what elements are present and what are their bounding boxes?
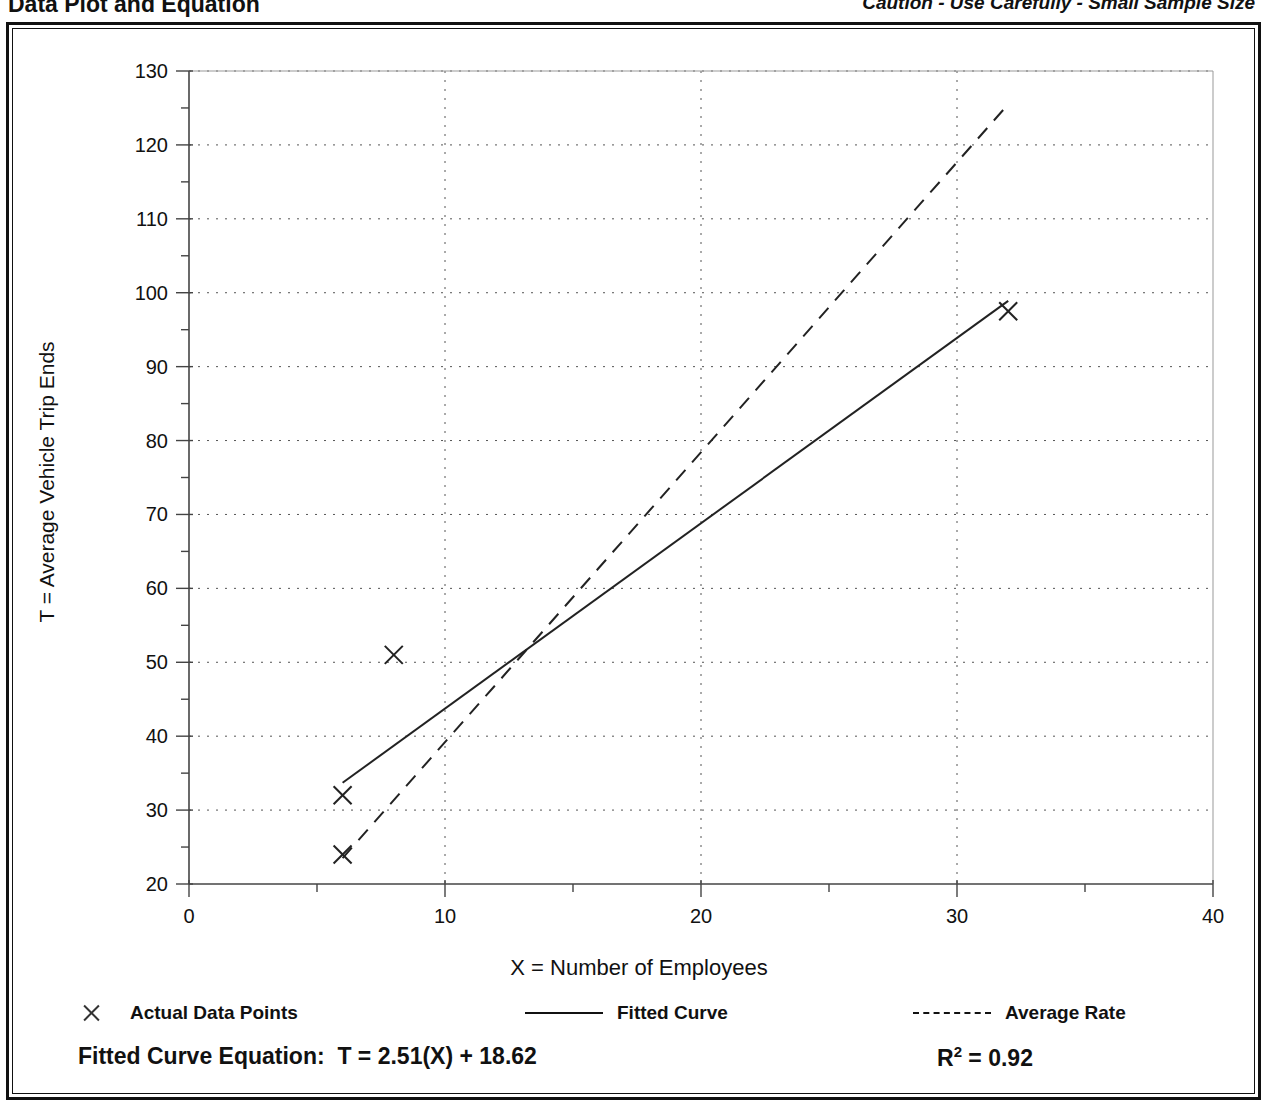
- y-tick-label: 20: [108, 874, 168, 894]
- data-series-layer: [334, 104, 1018, 863]
- equation-label: Fitted Curve Equation:: [78, 1043, 325, 1069]
- y-tick-label: 110: [108, 209, 168, 229]
- y-tick-label: 40: [108, 726, 168, 746]
- x-marker-icon: [70, 1002, 116, 1024]
- legend-item-fitted-curve: Fitted Curve: [525, 999, 728, 1027]
- grid-lines: [189, 71, 1213, 884]
- x-tick-label: 20: [671, 906, 731, 926]
- y-tick-label: 30: [108, 800, 168, 820]
- legend-label: Actual Data Points: [130, 1002, 298, 1024]
- y-tick-label: 120: [108, 135, 168, 155]
- dashed-line-icon: [913, 1002, 991, 1024]
- chart-container: 2030405060708090100110120130 010203040 T…: [0, 0, 1267, 1114]
- equation-value: T = 2.51(X) + 18.62: [337, 1043, 536, 1069]
- y-tick-label: 90: [108, 357, 168, 377]
- scatter-plot-svg: [0, 0, 1267, 1114]
- average-rate-line: [343, 104, 1009, 858]
- x-tick-label: 40: [1183, 906, 1243, 926]
- x-tick-label: 10: [415, 906, 475, 926]
- x-tick-label: 30: [927, 906, 987, 926]
- legend-label: Average Rate: [1005, 1002, 1126, 1024]
- data-point-marker: [385, 646, 403, 664]
- r-squared-value: R2 = 0.92: [937, 1043, 1033, 1072]
- fitted-curve-line: [343, 301, 1009, 783]
- legend-item-actual-data-points: Actual Data Points: [70, 999, 298, 1027]
- y-tick-label: 100: [108, 283, 168, 303]
- axis-ticks: [176, 71, 1213, 897]
- legend-item-average-rate: Average Rate: [913, 999, 1126, 1027]
- y-tick-label: 50: [108, 652, 168, 672]
- solid-line-icon: [525, 1002, 603, 1024]
- chart-legend: Actual Data Points Fitted Curve Average …: [70, 999, 1190, 1027]
- x-axis-title: X = Number of Employees: [389, 955, 889, 981]
- x-tick-label: 0: [159, 906, 219, 926]
- chart-footer: Fitted Curve Equation: T = 2.51(X) + 18.…: [0, 1043, 1255, 1083]
- fitted-curve-equation: Fitted Curve Equation: T = 2.51(X) + 18.…: [78, 1043, 537, 1070]
- y-tick-label: 70: [108, 504, 168, 524]
- legend-label: Fitted Curve: [617, 1002, 728, 1024]
- y-tick-label: 60: [108, 578, 168, 598]
- r-squared-symbol: R: [937, 1045, 954, 1071]
- y-axis-title: T = Average Vehicle Trip Ends: [35, 272, 59, 692]
- y-tick-label: 80: [108, 431, 168, 451]
- r-squared-exponent: 2: [954, 1043, 962, 1060]
- data-point-marker: [334, 786, 352, 804]
- r-squared-number: = 0.92: [968, 1045, 1033, 1071]
- data-point-marker: [334, 845, 352, 863]
- y-tick-label: 130: [108, 61, 168, 81]
